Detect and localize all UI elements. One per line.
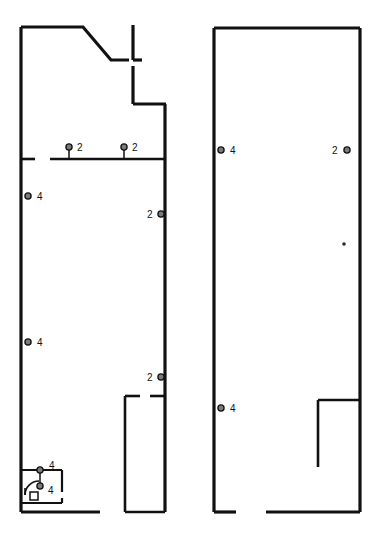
marker-label: 4 <box>48 485 54 496</box>
marker-label: 2 <box>77 142 83 153</box>
marker-label: 4 <box>37 337 43 348</box>
marker-label: 2 <box>132 142 138 153</box>
marker-ring <box>121 144 127 150</box>
marker-ring <box>158 374 164 380</box>
marker-label: 2 <box>147 209 153 220</box>
marker-label: 2 <box>147 372 153 383</box>
marker-label: 4 <box>37 191 43 202</box>
plumbing-fixture <box>30 492 38 500</box>
plan-background <box>0 0 372 546</box>
marker-label: 4 <box>230 403 236 414</box>
marker-label: 2 <box>332 145 338 156</box>
floor-plan-drawing: 22424244424 <box>0 0 372 546</box>
detail-speck <box>342 242 346 246</box>
marker-ring <box>158 211 164 217</box>
marker-ring <box>218 147 224 153</box>
marker-label: 4 <box>49 460 55 471</box>
marker-ring <box>37 483 43 489</box>
marker-ring <box>25 193 31 199</box>
marker-ring <box>218 405 224 411</box>
marker-ring <box>344 147 350 153</box>
marker-ring <box>25 339 31 345</box>
marker-ring <box>66 144 72 150</box>
marker-label: 4 <box>230 145 236 156</box>
marker-ring <box>37 467 43 473</box>
floor-plan-canvas: 22424244424 <box>0 0 372 546</box>
